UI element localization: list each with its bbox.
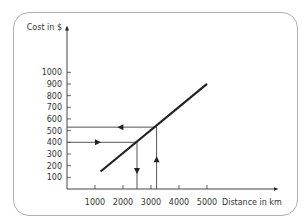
y-tick-label: 100 [47,173,62,182]
y-tick-label: 200 [47,162,62,171]
arrow-up-icon [154,156,160,162]
arrow-right-icon [95,139,101,145]
y-tick-label: 1000 [42,68,62,77]
x-tick-label: 2000 [113,198,133,207]
x-tick-label: 4000 [169,198,189,207]
cost-line [101,84,207,172]
y-tick-label: 400 [47,138,62,147]
y-tick-label: 600 [47,115,62,124]
data-line [101,84,207,172]
y-tick-label: 800 [47,92,62,101]
cost-distance-chart: 1002003004005006007008009001000100020003… [0,0,308,223]
arrow-left-icon [117,124,123,130]
x-tick-label: 3000 [141,198,161,207]
y-tick-label: 900 [47,80,62,89]
arrow-down-icon [134,168,140,174]
x-tick-label: 5000 [197,198,217,207]
x-axis-label: Distance in km [222,198,282,207]
y-axis-label: Cost in $ [27,23,62,32]
ticks: 1002003004005006007008009001000100020003… [42,68,218,207]
y-tick-label: 700 [47,103,62,112]
y-tick-label: 500 [47,127,62,136]
x-tick-label: 1000 [85,198,105,207]
y-tick-label: 300 [47,150,62,159]
axes [67,28,276,189]
